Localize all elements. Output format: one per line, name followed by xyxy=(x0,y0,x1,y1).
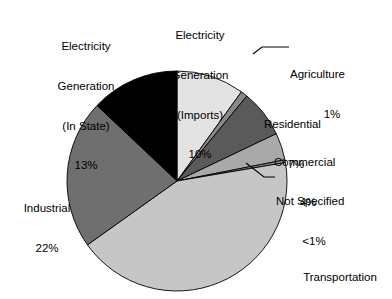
pie-chart-figure: Electricity Generation (In State) 13% El… xyxy=(0,0,392,299)
label-line: Electricity xyxy=(28,40,144,53)
label-line: Generation xyxy=(28,80,144,93)
label-line: Transportation xyxy=(288,271,392,284)
label-line: Electricity xyxy=(148,29,252,42)
label-line: Not Specified xyxy=(276,195,390,208)
label-transportation: Transportation 43% xyxy=(288,245,392,299)
label-line: Generation xyxy=(148,69,252,82)
label-industrial: Industrial 22% xyxy=(6,176,88,282)
label-line: Agriculture xyxy=(290,68,388,81)
label-value: 10% xyxy=(148,148,252,161)
label-line: (In State) xyxy=(28,120,144,133)
label-line: Industrial xyxy=(6,202,88,215)
label-line: (Imports) xyxy=(148,109,252,122)
label-electricity-generation-imports: Electricity Generation (Imports) 10% xyxy=(148,3,252,188)
label-value: 22% xyxy=(6,242,88,255)
label-value: 13% xyxy=(28,159,144,172)
agriculture-leader-line xyxy=(253,47,289,54)
label-electricity-generation-in-state: Electricity Generation (In State) 13% xyxy=(28,14,144,199)
label-line: Commercial xyxy=(274,156,384,169)
